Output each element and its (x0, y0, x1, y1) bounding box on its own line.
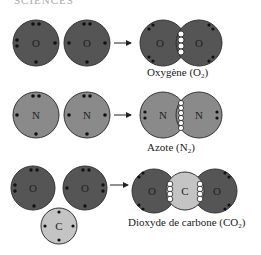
atom-oxygen-2: O (64, 20, 110, 66)
molecule-o2: O O (140, 20, 222, 66)
molecule-diagram: O O O O Oxygène (O2) (0, 0, 261, 255)
svg-text:O: O (195, 37, 203, 49)
row-nitrogen: N N N N Azote (N2) (13, 92, 222, 155)
caption-oxygen: Oxygène (O2) (147, 66, 209, 80)
atom-carbon: C (41, 208, 77, 244)
svg-text:O: O (156, 37, 164, 49)
svg-text:N: N (83, 109, 91, 121)
row-carbon-dioxide: O O C O C O (11, 166, 246, 244)
row-oxygen: O O O O Oxygène (O2) (13, 20, 222, 80)
svg-text:O: O (32, 37, 40, 49)
svg-text:C: C (55, 220, 62, 232)
svg-text:C: C (181, 185, 188, 197)
molecule-n2: N N (140, 92, 222, 138)
svg-text:O: O (29, 182, 37, 194)
molecule-co2: O C O (132, 169, 237, 213)
svg-text:O: O (83, 37, 91, 49)
atom-nitrogen-1: N (13, 92, 59, 138)
svg-text:O: O (148, 185, 156, 197)
atom-oxygen-1: O (13, 20, 59, 66)
atom-nitrogen-2: N (64, 92, 110, 138)
header-partial-text: SCIENCES (14, 0, 74, 6)
atom-oxygen-3: O (11, 166, 55, 210)
svg-text:O: O (213, 185, 221, 197)
svg-text:N: N (32, 109, 40, 121)
atom-oxygen-4: O (63, 166, 107, 210)
svg-text:N: N (159, 109, 167, 121)
svg-text:N: N (195, 109, 203, 121)
svg-text:O: O (81, 182, 89, 194)
caption-carbon-dioxide: Dioxyde de carbone (CO2) (128, 216, 246, 230)
caption-nitrogen: Azote (N2) (147, 141, 195, 155)
